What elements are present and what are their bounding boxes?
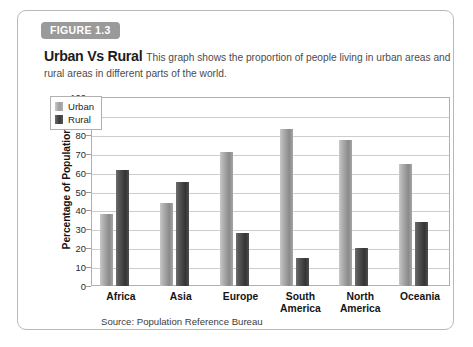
bar-rural-africa <box>116 170 129 286</box>
figure-card: FIGURE 1.3 Urban Vs RuralThis graph show… <box>17 10 454 330</box>
x-axis-label-south-america: SouthAmerica <box>271 291 331 316</box>
bar-rural-asia <box>176 182 189 286</box>
figure-caption: Urban Vs RuralThis graph shows the propo… <box>44 49 464 81</box>
y-axis-tick-label: 0 <box>60 281 86 292</box>
y-axis-tick-label: 40 <box>60 205 86 216</box>
y-axis-tick-label: 10 <box>60 262 86 273</box>
figure-title: Urban Vs Rural <box>44 48 142 64</box>
x-axis-label-line: Oceania <box>390 291 450 303</box>
x-axis-label-asia: Asia <box>151 291 211 303</box>
chart-legend: UrbanRural <box>50 96 102 130</box>
y-axis-tick-mark <box>86 286 91 287</box>
x-axis-label-line: Asia <box>151 291 211 303</box>
bar-group <box>330 97 390 286</box>
bar-urban-europe <box>220 152 233 286</box>
y-axis-tick-label: 30 <box>60 224 86 235</box>
bar-urban-north-america <box>339 140 352 286</box>
bar-rural-oceania <box>415 222 428 286</box>
x-axis-label-africa: Africa <box>91 291 151 303</box>
y-axis-tick-label: 20 <box>60 243 86 254</box>
bar-group <box>151 97 211 286</box>
bar-urban-asia <box>160 203 173 286</box>
y-axis-tick-label: 50 <box>60 186 86 197</box>
source-note: Source: Population Reference Bureau <box>101 316 263 327</box>
legend-item-urban: Urban <box>55 100 94 113</box>
y-axis-tick-label: 80 <box>60 129 86 140</box>
x-axis-label-line: America <box>330 303 390 315</box>
legend-swatch-rural-icon <box>55 115 63 124</box>
bar-rural-south-america <box>296 258 309 286</box>
bar-rural-north-america <box>355 248 368 286</box>
legend-label: Urban <box>68 101 94 112</box>
y-axis-tick-label: 60 <box>60 167 86 178</box>
bar-chart: Percentage of Population 100908070605040… <box>35 91 472 326</box>
x-axis-label-line: America <box>271 303 331 315</box>
x-axis-label-line: South <box>271 291 331 303</box>
bar-urban-oceania <box>399 164 412 286</box>
bar-group <box>271 97 331 286</box>
legend-swatch-urban-icon <box>55 102 63 111</box>
x-axis-label-north-america: NorthAmerica <box>330 291 390 316</box>
y-axis-tick-label: 70 <box>60 148 86 159</box>
bar-group <box>390 97 450 286</box>
x-axis-label-line: North <box>330 291 390 303</box>
bar-group <box>211 97 271 286</box>
bar-rural-europe <box>236 233 249 286</box>
bar-urban-south-america <box>280 129 293 286</box>
legend-label: Rural <box>68 114 91 125</box>
x-axis-label-oceania: Oceania <box>390 291 450 303</box>
x-axis-label-europe: Europe <box>211 291 271 303</box>
x-axis-label-line: Africa <box>91 291 151 303</box>
bar-urban-africa <box>100 214 113 286</box>
legend-item-rural: Rural <box>55 113 94 126</box>
x-axis-label-line: Europe <box>211 291 271 303</box>
figure-number-tab: FIGURE 1.3 <box>41 22 120 39</box>
bars-layer <box>91 97 450 286</box>
